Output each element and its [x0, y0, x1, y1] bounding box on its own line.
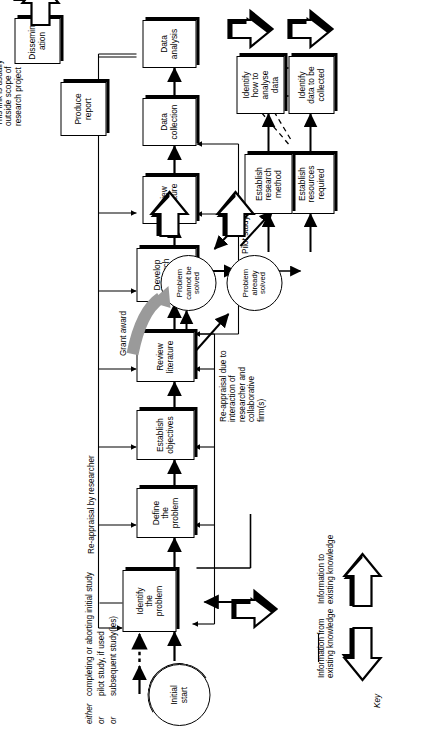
key-arrows: [0, 0, 431, 754]
diagram-canvas: Initial start Start point after: Identif…: [0, 0, 431, 754]
rotated-flowchart: Initial start Start point after: Identif…: [0, 0, 431, 754]
